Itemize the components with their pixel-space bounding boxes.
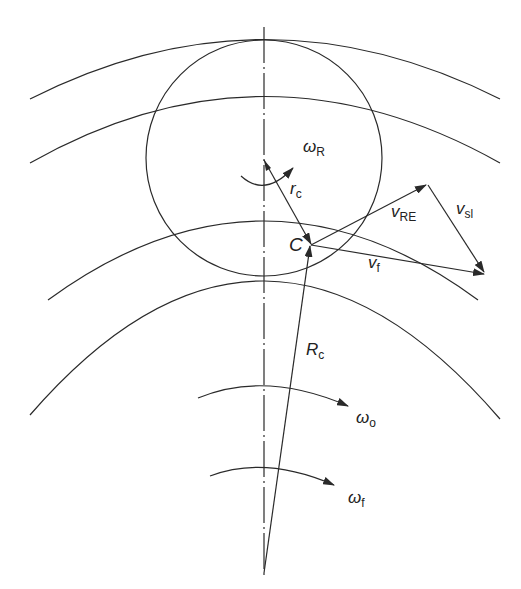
label-omega-o: ωo [356,409,376,429]
omega-r-rotation-arrow [241,168,293,185]
omega-f-rotation-arrow [210,467,334,485]
diagram-svg [0,0,521,589]
label-R-c: Rc [306,341,324,361]
label-r-c: rc [290,180,302,200]
inner-race-arc-2 [30,281,500,419]
v-f-vector [311,245,484,274]
diagram-canvas: ωR rc C vRE vsl vf Rc ωo ωf [0,0,521,589]
label-omega-r: ωR [303,138,325,158]
outer-race-arc-1 [30,40,500,100]
label-v-f: vf [368,254,380,274]
label-C: C [289,235,303,254]
outer-race-arc-2 [30,97,500,164]
label-omega-f: ωf [348,489,365,509]
label-v-re: vRE [391,203,416,223]
omega-o-rotation-arrow [198,386,348,406]
R-c-vector [264,246,310,573]
r-c-vector [264,160,311,244]
inner-race-arc-1 [48,221,478,300]
label-v-sl: vsl [456,200,473,220]
